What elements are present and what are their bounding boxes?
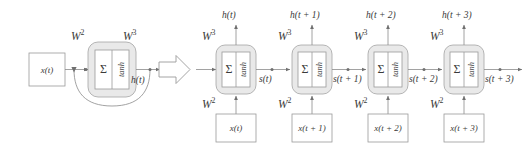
left-output-label: h(t) bbox=[131, 76, 145, 86]
step0-state-label: s(t) bbox=[259, 75, 272, 85]
step2-weight-out-exponent: 3 bbox=[364, 28, 368, 37]
step0-output-label: h(t) bbox=[222, 11, 236, 21]
left-input-box-label: x(t) bbox=[29, 53, 65, 86]
step2-weight-out-base: W bbox=[354, 30, 364, 42]
step2-cell-sum-symbol: Σ bbox=[374, 52, 388, 87]
step0-cell-sum-symbol: Σ bbox=[222, 52, 236, 87]
step0-weight-out-exponent: 3 bbox=[212, 28, 216, 37]
left-weight-in-exponent: 2 bbox=[81, 28, 85, 37]
left-weight-in-base: W bbox=[71, 30, 81, 42]
step0-weight-out-label: W3 bbox=[202, 29, 216, 42]
diagram-canvas: x(t) Σ tanh W2 W3 h(t) h(t) W3 Σ tanh W2… bbox=[0, 0, 530, 154]
step3-output-label: h(t + 3) bbox=[442, 11, 472, 21]
left-cell-activation-label: tanh bbox=[112, 50, 129, 89]
step3-cell-sum-symbol: Σ bbox=[450, 52, 464, 87]
step2-output-label: h(t + 2) bbox=[366, 11, 396, 21]
step0-weight-in-base: W bbox=[202, 98, 212, 110]
step0-weight-out-base: W bbox=[202, 30, 212, 42]
step1-cell-activation-label: tanh bbox=[312, 52, 326, 87]
step2-state-dot bbox=[423, 68, 426, 71]
step1-cell-sum-symbol: Σ bbox=[298, 52, 312, 87]
step0-cell-activation-label: tanh bbox=[236, 52, 250, 87]
step0-weight-in-label: W2 bbox=[202, 97, 216, 110]
step3-weight-out-label: W3 bbox=[430, 29, 444, 42]
step3-input-box-label: x(t + 3) bbox=[444, 114, 484, 142]
step1-weight-in-label: W2 bbox=[278, 97, 292, 110]
step3-state-label: s(t + 3) bbox=[485, 75, 514, 85]
left-cell-sum-symbol: Σ bbox=[95, 50, 112, 89]
step0-weight-in-exponent: 2 bbox=[212, 96, 216, 105]
step1-state-dot bbox=[347, 68, 350, 71]
step3-weight-in-exponent: 2 bbox=[440, 96, 444, 105]
step3-weight-out-exponent: 3 bbox=[440, 28, 444, 37]
step0-input-box-label: x(t) bbox=[216, 114, 256, 142]
left-weight-out-exponent: 3 bbox=[133, 28, 137, 37]
step1-weight-out-base: W bbox=[278, 30, 288, 42]
left-weight-out-label: W3 bbox=[123, 29, 137, 42]
step2-weight-in-exponent: 2 bbox=[364, 96, 368, 105]
left-loop-tap-dot bbox=[149, 68, 152, 71]
step3-state-dot bbox=[499, 68, 502, 71]
step3-cell-activation-label: tanh bbox=[464, 52, 478, 87]
step1-input-box-label: x(t + 1) bbox=[292, 114, 332, 142]
step1-output-label: h(t + 1) bbox=[290, 11, 320, 21]
step2-input-box-label: x(t + 2) bbox=[368, 114, 408, 142]
step1-state-label: s(t + 1) bbox=[333, 75, 362, 85]
step2-weight-in-base: W bbox=[354, 98, 364, 110]
step2-cell-activation-label: tanh bbox=[388, 52, 402, 87]
step1-weight-out-exponent: 3 bbox=[288, 28, 292, 37]
unroll-block-arrow bbox=[159, 56, 190, 84]
step3-weight-in-base: W bbox=[430, 98, 440, 110]
step2-weight-out-label: W3 bbox=[354, 29, 368, 42]
left-weight-out-base: W bbox=[123, 30, 133, 42]
left-weight-in-label: W2 bbox=[71, 29, 85, 42]
step3-weight-in-label: W2 bbox=[430, 97, 444, 110]
step1-weight-in-exponent: 2 bbox=[288, 96, 292, 105]
left-input-join-dot bbox=[85, 68, 88, 71]
step1-weight-in-base: W bbox=[278, 98, 288, 110]
step0-state-dot bbox=[271, 68, 274, 71]
step2-state-label: s(t + 2) bbox=[409, 75, 438, 85]
step2-weight-in-label: W2 bbox=[354, 97, 368, 110]
step3-weight-out-base: W bbox=[430, 30, 440, 42]
step1-weight-out-label: W3 bbox=[278, 29, 292, 42]
